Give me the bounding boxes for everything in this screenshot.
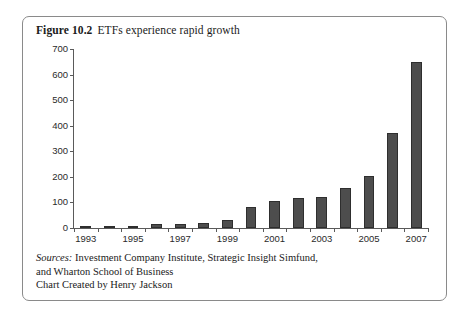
figure-label: Figure 10.2 xyxy=(36,24,92,36)
bar-1998 xyxy=(198,223,209,228)
x-axis-tick-label: 1993 xyxy=(75,234,96,244)
sources-line-1: Sources: Investment Company Institute, S… xyxy=(36,251,436,265)
x-axis-tick-mark xyxy=(98,228,99,232)
bar-2004 xyxy=(340,188,351,228)
x-axis-tick-mark xyxy=(334,228,335,232)
x-axis-tick-label: 1997 xyxy=(170,234,191,244)
bar-chart: 0100200300400500600700199319951997199920… xyxy=(36,41,436,246)
bar-1999 xyxy=(222,220,233,228)
x-axis-tick-mark xyxy=(428,228,429,232)
y-axis-tick-mark xyxy=(70,177,74,178)
y-axis-tick-mark xyxy=(70,49,74,50)
x-axis-tick-mark xyxy=(74,228,75,232)
figure-box: Figure 10.2ETFs experience rapid growth … xyxy=(22,16,447,301)
sources-block: Sources: Investment Company Institute, S… xyxy=(36,251,436,292)
x-axis-tick-label: 2003 xyxy=(311,234,332,244)
x-axis-tick-label: 1995 xyxy=(122,234,143,244)
x-axis-tick-mark xyxy=(192,228,193,232)
plot-area: 0100200300400500600700199319951997199920… xyxy=(73,49,428,229)
bar-2005 xyxy=(364,176,375,228)
bar-1994 xyxy=(104,226,115,228)
bar-1993 xyxy=(80,226,91,228)
sources-line-3: Chart Created by Henry Jackson xyxy=(36,278,436,292)
sources-line-2: and Wharton School of Business xyxy=(36,265,436,279)
sources-text-1: Investment Company Institute, Strategic … xyxy=(75,252,318,263)
y-axis-tick-mark xyxy=(70,126,74,127)
bar-2001 xyxy=(269,201,280,228)
x-axis-tick-label: 2007 xyxy=(406,234,427,244)
x-axis-tick-mark xyxy=(239,228,240,232)
bar-2006 xyxy=(387,133,398,228)
x-axis-tick-label: 2001 xyxy=(264,234,285,244)
x-axis-tick-mark xyxy=(381,228,382,232)
x-axis-tick-label: 1999 xyxy=(217,234,238,244)
x-axis-tick-mark xyxy=(121,228,122,232)
sources-label: Sources: xyxy=(36,252,72,263)
bar-2007 xyxy=(411,62,422,228)
x-axis-tick-mark xyxy=(145,228,146,232)
x-axis-tick-mark xyxy=(286,228,287,232)
bar-1996 xyxy=(151,224,162,228)
bar-2003 xyxy=(316,197,327,228)
y-axis-tick-mark xyxy=(70,75,74,76)
x-axis-tick-label: 2005 xyxy=(358,234,379,244)
x-axis-tick-mark xyxy=(263,228,264,232)
x-axis-tick-mark xyxy=(357,228,358,232)
bar-2002 xyxy=(293,198,304,228)
bar-1997 xyxy=(175,224,186,228)
figure-caption: Figure 10.2ETFs experience rapid growth xyxy=(36,24,240,36)
bar-2000 xyxy=(246,207,257,228)
x-axis-tick-mark xyxy=(168,228,169,232)
y-axis-tick-mark xyxy=(70,100,74,101)
page-title: ETFs experience rapid growth xyxy=(97,24,239,36)
bar-1995 xyxy=(128,226,139,228)
y-axis-tick-mark xyxy=(70,151,74,152)
x-axis-tick-mark xyxy=(216,228,217,232)
y-axis-tick-mark xyxy=(70,202,74,203)
x-axis-tick-mark xyxy=(310,228,311,232)
x-axis-tick-mark xyxy=(404,228,405,232)
